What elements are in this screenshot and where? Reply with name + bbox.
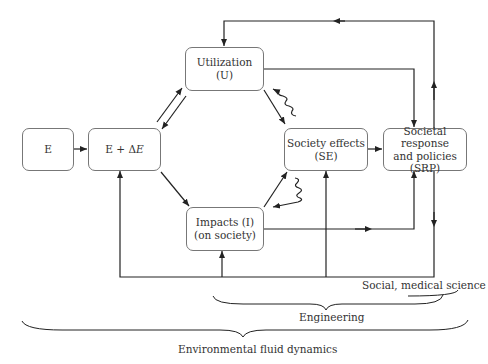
node-impacts-line2: (on society) (194, 229, 256, 242)
arrow-utilization-to-srp (263, 69, 414, 127)
node-srp-line2: and policies (393, 150, 457, 163)
node-srp-line3: (SRP) (410, 162, 440, 175)
label-engineering: Engineering (299, 311, 365, 323)
arrow-utilization-to-se (264, 90, 285, 124)
arrow-impacts-to-srp (263, 171, 414, 229)
node-srp: Societal response and policies (SRP) (383, 128, 467, 171)
node-utilization: Utilization (U) (185, 47, 264, 91)
node-utilization-line1: Utilization (197, 56, 253, 69)
wavy-arrow-se-to-impacts (273, 178, 302, 207)
node-e: E (22, 128, 74, 171)
node-e-delta-e: E + ΔE (88, 128, 161, 171)
arrow-impacts-to-se (264, 172, 287, 207)
label-social-medical-science: Social, medical science (362, 279, 486, 291)
node-e-label: E (44, 143, 52, 156)
node-impacts: Impacts (I) (on society) (186, 207, 264, 251)
node-e-delta-e-label: E + ΔE (105, 143, 143, 156)
feedback-srp-bottom-line (120, 170, 434, 277)
node-se-line1: Society effects (287, 137, 365, 150)
arrow-edelta-to-utilization (157, 88, 182, 122)
node-srp-line1: Societal response (384, 125, 466, 150)
arrow-edelta-to-impacts (161, 172, 189, 206)
wavy-arrow-se-to-utilization (273, 89, 296, 116)
node-society-effects: Society effects (SE) (284, 128, 368, 171)
label-environmental-fluid-dynamics: Environmental fluid dynamics (178, 343, 337, 355)
brace-environmental (22, 320, 468, 337)
arrow-utilization-to-edelta (162, 96, 186, 129)
node-impacts-line1: Impacts (I) (196, 216, 254, 229)
node-se-line2: (SE) (314, 150, 337, 163)
node-utilization-line2: (U) (216, 69, 233, 82)
brace-engineering (213, 295, 443, 310)
